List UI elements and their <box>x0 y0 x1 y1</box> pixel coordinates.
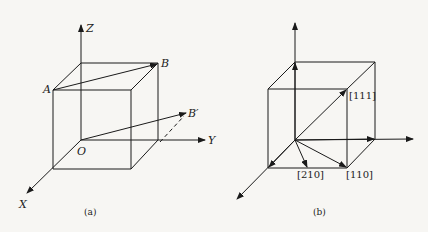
caption-b: (b) <box>313 207 326 217</box>
label-b-prime: B′ <box>187 107 199 120</box>
vector-ob-prime <box>81 113 186 140</box>
vector-110 <box>295 140 346 167</box>
label-b: B <box>160 57 169 70</box>
dashed-translation <box>160 116 184 142</box>
label-111: [111] <box>349 90 376 101</box>
label-o: O <box>77 145 86 158</box>
label-110: [110] <box>346 169 373 180</box>
panel-a <box>27 25 205 193</box>
label-y: Y <box>208 134 217 147</box>
x-axis <box>27 140 81 193</box>
figure: Z Y X O A B B′ (a) [111] [210] [110] (b) <box>0 0 428 232</box>
label-210: [210] <box>297 169 324 180</box>
label-z: Z <box>85 22 94 35</box>
vector-111 <box>295 90 346 140</box>
vector-100 <box>269 140 295 167</box>
panel-b <box>237 23 413 199</box>
caption-a: (a) <box>84 207 96 217</box>
label-x: X <box>18 198 28 211</box>
label-a: A <box>42 83 51 96</box>
cube-diagrams: Z Y X O A B B′ (a) [111] [210] [110] (b) <box>0 0 428 232</box>
vector-210 <box>295 140 307 167</box>
vector-ab <box>53 64 157 90</box>
